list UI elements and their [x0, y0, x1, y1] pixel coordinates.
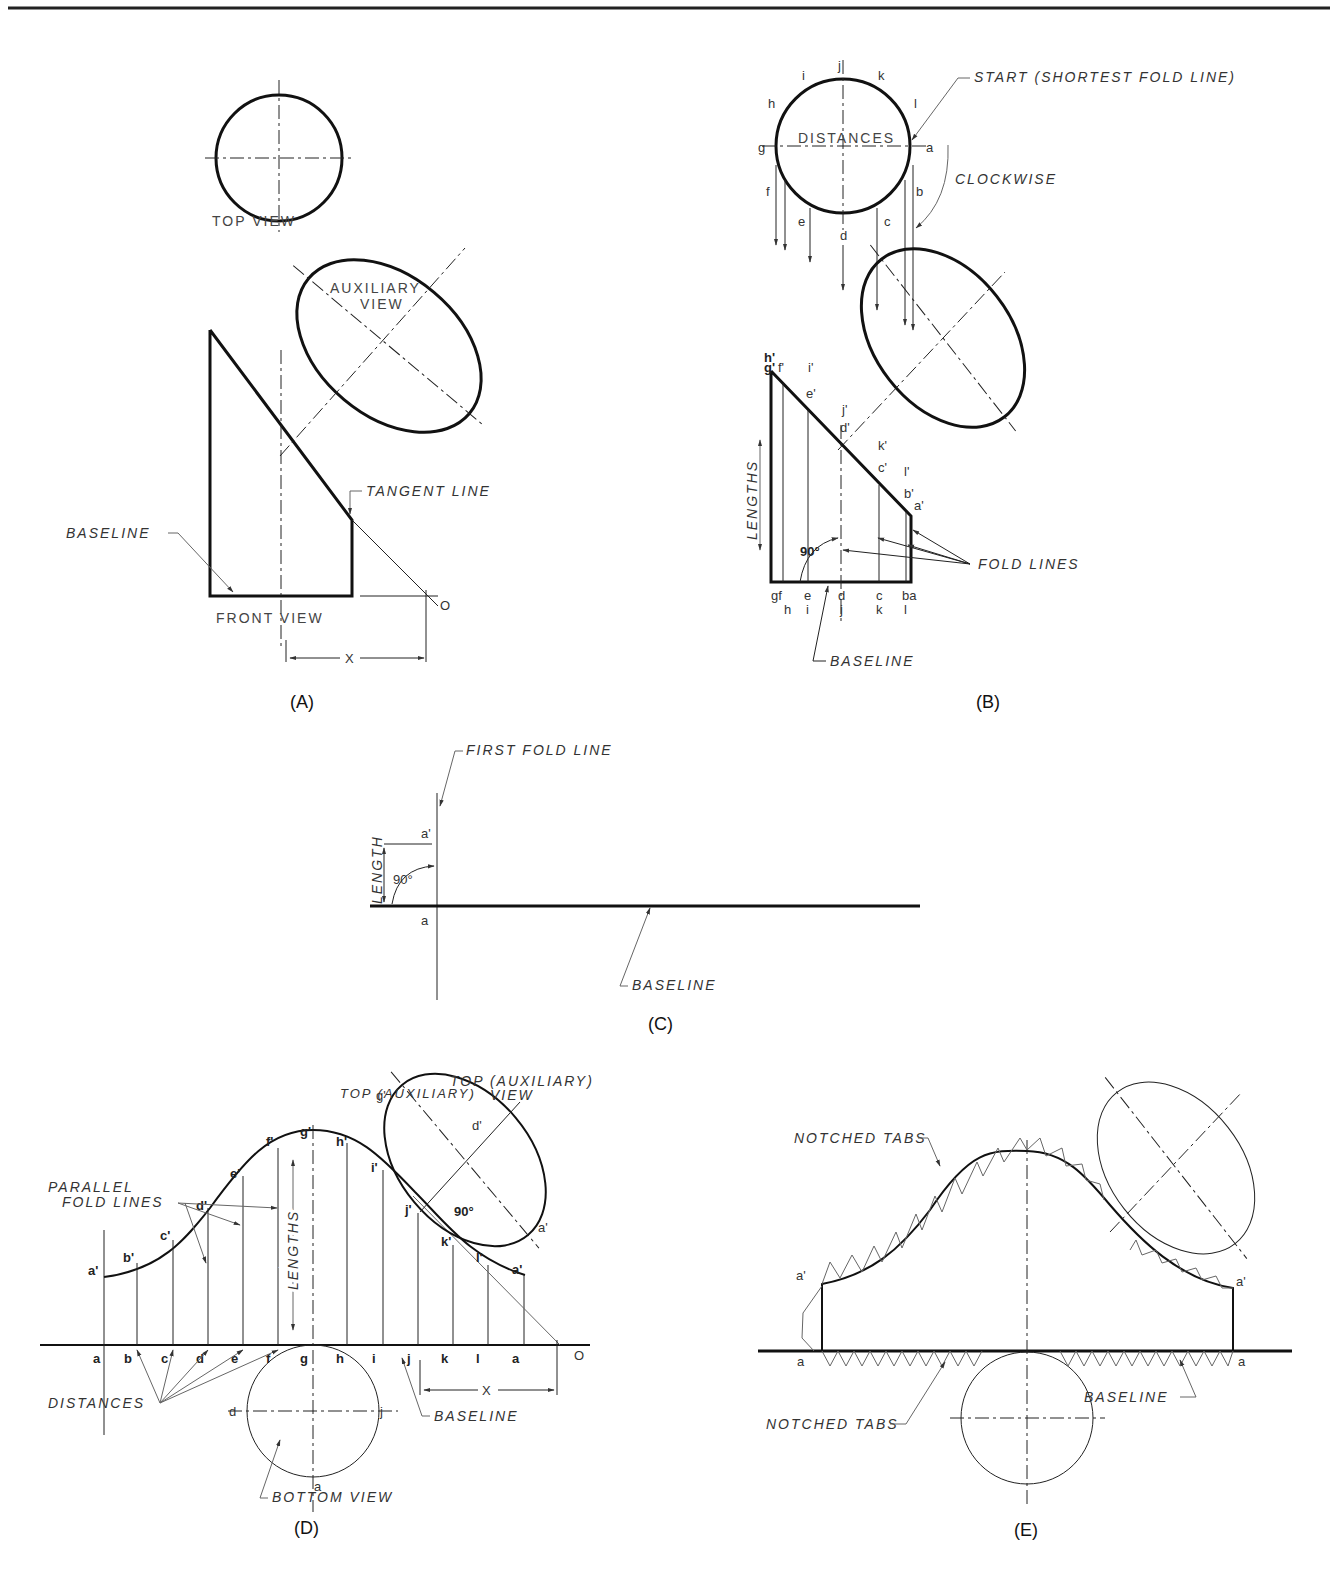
base-point-labels: a b c d e f g h i j k l a	[93, 1351, 520, 1366]
svg-text:f: f	[766, 184, 770, 199]
svg-text:g': g'	[376, 1088, 386, 1103]
svg-text:k': k'	[878, 438, 887, 453]
svg-text:l: l	[914, 96, 917, 111]
start-label: START (SHORTEST FOLD LINE)	[974, 69, 1236, 85]
tangent-line-label: TANGENT LINE	[366, 483, 491, 499]
svg-text:i': i'	[808, 360, 813, 375]
svg-text:e': e'	[806, 386, 816, 401]
caption-a: (A)	[290, 692, 314, 712]
first-fold-line-label: FIRST FOLD LINE	[466, 742, 613, 758]
svg-text:d': d'	[196, 1198, 207, 1213]
lengths-label-b: LENGTHS	[744, 460, 760, 540]
svg-text:a: a	[926, 140, 934, 155]
svg-text:e: e	[798, 214, 805, 229]
svg-text:i: i	[802, 68, 805, 83]
svg-text:g: g	[758, 140, 765, 155]
top-view-label: TOP VIEW	[212, 213, 296, 229]
svg-text:ba: ba	[902, 588, 917, 603]
svg-text:O: O	[574, 1348, 584, 1363]
svg-text:a: a	[797, 1354, 805, 1369]
svg-text:h: h	[336, 1351, 344, 1366]
svg-text:X: X	[482, 1383, 491, 1398]
svg-text:j: j	[379, 1404, 383, 1419]
svg-text:g': g'	[300, 1124, 311, 1139]
baseline-label-b: BASELINE	[830, 653, 914, 669]
svg-text:d': d'	[472, 1118, 482, 1133]
svg-text:a': a'	[538, 1220, 548, 1235]
svg-text:LENGTH: LENGTH	[369, 835, 385, 904]
caption-e: (E)	[1014, 1520, 1038, 1540]
svg-text:l': l'	[904, 464, 909, 479]
svg-text:i: i	[806, 602, 809, 617]
baseline-label-e: BASELINE	[1084, 1389, 1168, 1405]
svg-text:DISTANCES: DISTANCES	[798, 130, 895, 146]
svg-text:f': f'	[266, 1134, 273, 1149]
svg-text:a: a	[421, 913, 429, 928]
front-view-label: FRONT VIEW	[216, 610, 324, 626]
svg-text:k: k	[441, 1351, 449, 1366]
svg-text:a': a'	[796, 1268, 806, 1283]
distances-label: DISTANCES	[48, 1395, 145, 1411]
svg-text:i': i'	[371, 1160, 378, 1175]
svg-text:a': a'	[512, 1262, 522, 1277]
svg-text:i: i	[372, 1351, 376, 1366]
svg-text:a': a'	[88, 1263, 98, 1278]
svg-text:a': a'	[421, 826, 431, 841]
fold-lines-label: FOLD LINES	[978, 556, 1080, 572]
svg-text:k: k	[878, 68, 885, 83]
clockwise-label: CLOCKWISE	[955, 171, 1057, 187]
svg-text:b': b'	[904, 486, 914, 501]
baseline-label: BASELINE	[66, 525, 150, 541]
svg-text:j': j'	[841, 402, 847, 417]
svg-text:h': h'	[336, 1134, 347, 1149]
panel-b: DISTANCES i j k h l g a f b e c d START …	[744, 58, 1236, 712]
svg-text:j: j	[406, 1351, 411, 1366]
svg-text:c': c'	[878, 460, 887, 475]
svg-text:j: j	[839, 602, 843, 617]
svg-text:90°: 90°	[454, 1204, 474, 1219]
svg-text:k: k	[876, 602, 883, 617]
svg-text:b': b'	[123, 1250, 134, 1265]
svg-text:d: d	[229, 1404, 236, 1419]
svg-text:g': g'	[764, 360, 775, 375]
svg-text:j: j	[837, 58, 841, 73]
svg-text:VIEW: VIEW	[490, 1087, 534, 1103]
svg-text:a: a	[1238, 1354, 1246, 1369]
svg-text:k': k'	[441, 1234, 451, 1249]
panel-d: X O TOP (AUXILIARY) TOP (AUXILIARY) a b …	[40, 1029, 594, 1538]
development-drawing: TOP VIEW AUXILIARY VIEW FRONT VIEW O X T…	[0, 0, 1336, 1570]
svg-text:d: d	[840, 228, 847, 243]
svg-text:j': j'	[404, 1202, 412, 1217]
svg-text:b: b	[124, 1351, 132, 1366]
svg-text:c: c	[161, 1351, 168, 1366]
svg-text:VIEW: VIEW	[360, 296, 404, 312]
dimension-x: X	[345, 651, 354, 666]
notched-tabs-bottom-label: NOTCHED TABS	[766, 1416, 899, 1432]
caption-d: (D)	[294, 1518, 319, 1538]
notched-tabs-top-label: NOTCHED TABS	[794, 1130, 927, 1146]
panel-a: TOP VIEW AUXILIARY VIEW FRONT VIEW O X T…	[66, 80, 530, 712]
parallel-fold-lines-label: PARALLEL	[48, 1179, 134, 1195]
svg-text:b: b	[916, 184, 923, 199]
svg-text:c: c	[884, 214, 891, 229]
baseline-label-c: BASELINE	[632, 977, 716, 993]
baseline-label-d: BASELINE	[434, 1408, 518, 1424]
svg-text:a: a	[93, 1351, 101, 1366]
svg-text:h: h	[768, 96, 775, 111]
panel-e: a' a' a a NOTCHED TABS NOTCHED TABS BASE…	[758, 1037, 1299, 1540]
auxiliary-view-label: AUXILIARY	[330, 280, 421, 296]
svg-text:d': d'	[840, 420, 850, 435]
svg-text:e': e'	[230, 1166, 240, 1181]
top-ellipse-e	[1065, 1052, 1287, 1285]
svg-text:l': l'	[476, 1250, 483, 1265]
svg-text:l: l	[476, 1351, 480, 1366]
caption-b: (B)	[976, 692, 1000, 712]
svg-text:d: d	[838, 588, 845, 603]
svg-text:h: h	[784, 602, 791, 617]
svg-text:a': a'	[914, 498, 924, 513]
svg-text:gf: gf	[771, 588, 782, 603]
panel-c: LENGTH 90° a' a FIRST FOLD LINE BASELINE…	[369, 742, 920, 1034]
svg-text:c': c'	[160, 1228, 170, 1243]
bottom-view-label: BOTTOM VIEW	[272, 1489, 393, 1505]
svg-text:e: e	[804, 588, 811, 603]
